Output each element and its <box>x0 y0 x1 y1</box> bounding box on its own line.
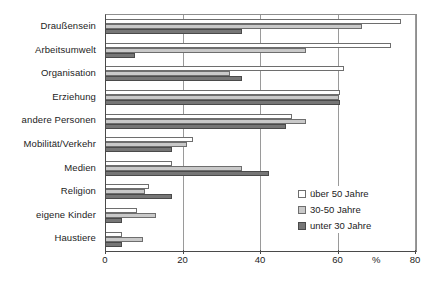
bar <box>106 218 122 223</box>
bar <box>106 147 172 152</box>
value-axis-unit-label: % <box>372 255 380 265</box>
bar <box>106 171 269 176</box>
legend-swatch-icon <box>298 222 306 230</box>
category-label: Erziehung <box>0 85 101 109</box>
value-axis-tick-label: 60 <box>332 255 343 265</box>
bar <box>106 76 242 81</box>
bar <box>106 242 122 247</box>
legend-label: 30-50 Jahre <box>310 205 361 215</box>
bar-chart: DraußenseinArbeitsumweltOrganisationErzi… <box>0 0 433 282</box>
legend-swatch-icon <box>298 190 306 198</box>
category-label: Arbeitsumwelt <box>0 38 101 62</box>
category-axis: DraußenseinArbeitsumweltOrganisationErzi… <box>0 14 101 250</box>
bar <box>106 53 135 58</box>
value-axis-tick-label: 0 <box>102 255 107 265</box>
legend-label: über 50 Jahre <box>310 189 369 199</box>
bar-group <box>106 86 416 110</box>
bar-group <box>106 133 416 157</box>
bar <box>106 100 340 105</box>
legend-label: unter 30 Jahre <box>310 221 371 231</box>
bar-group <box>106 157 416 181</box>
legend-item: unter 30 Jahre <box>298 220 371 231</box>
category-label: Medien <box>0 156 101 180</box>
bar <box>106 124 286 129</box>
bar <box>106 48 306 53</box>
bar-group <box>106 15 416 39</box>
bar-group <box>106 62 416 86</box>
bar-group <box>106 39 416 63</box>
legend-item: über 50 Jahre <box>298 188 371 199</box>
category-label: eigene Kinder <box>0 203 101 227</box>
category-label: Mobilität/Verkehr <box>0 132 101 156</box>
legend-item: 30-50 Jahre <box>298 204 371 215</box>
category-label: Organisation <box>0 61 101 85</box>
bar <box>106 29 242 34</box>
value-axis-tick-label: 40 <box>255 255 266 265</box>
chart-legend: über 50 Jahre30-50 Jahreunter 30 Jahre <box>296 186 373 233</box>
value-axis-tick-label: 20 <box>177 255 188 265</box>
bar-group <box>106 109 416 133</box>
category-label: andere Personen <box>0 108 101 132</box>
value-axis-tick-label: 80 <box>410 255 421 265</box>
category-label: Draußensein <box>0 14 101 38</box>
legend-swatch-icon <box>298 206 306 214</box>
value-axis-labels: 020406080% <box>0 255 433 271</box>
bar <box>106 194 172 199</box>
category-label: Religion <box>0 179 101 203</box>
category-label: Haustiere <box>0 226 101 250</box>
